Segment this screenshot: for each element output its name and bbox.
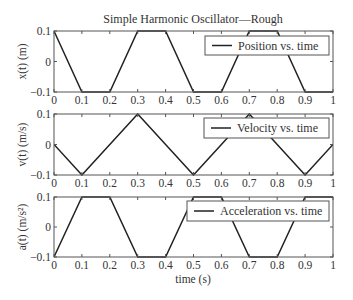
x-tick-label: 0.5	[186, 177, 201, 189]
x-tick-label: 0.6	[214, 94, 229, 106]
subplots: 00.10.20.30.40.50.60.70.80.91−0.100.1x(t…	[16, 25, 336, 271]
x-tick-label: 0.9	[298, 259, 313, 271]
x-tick-label: 0.3	[131, 177, 146, 189]
x-tick-label: 1	[330, 94, 336, 106]
legend: Position vs. time	[205, 36, 329, 55]
x-tick-label: 0.3	[131, 94, 146, 106]
y-tick-label: 0	[45, 56, 51, 68]
y-tick-label: 0.1	[37, 191, 52, 203]
legend: Velocity vs. time	[204, 118, 329, 138]
y-tick-label: 0	[45, 221, 51, 233]
x-tick-label: 0.9	[298, 94, 313, 106]
x-axis-label: time (s)	[175, 273, 211, 286]
x-tick-label: 0.7	[242, 259, 257, 271]
y-tick-label: −0.1	[30, 251, 51, 263]
subplot-3: 00.10.20.30.40.50.60.70.80.91−0.100.1a(t…	[16, 191, 336, 271]
x-tick-label: 0.2	[103, 177, 118, 189]
x-tick-label: 0	[51, 177, 57, 189]
x-tick-label: 0.2	[103, 94, 118, 106]
y-axis-label: a(t) (m/s²)	[16, 204, 29, 251]
x-tick-label: 0.8	[270, 259, 285, 271]
x-tick-label: 0.4	[158, 177, 173, 189]
x-tick-label: 0.6	[214, 259, 229, 271]
x-tick-label: 0	[51, 94, 57, 106]
legend-label: Velocity vs. time	[237, 121, 318, 135]
x-tick-label: 0.9	[298, 177, 313, 189]
x-tick-label: 0.5	[186, 259, 201, 271]
x-tick-label: 0.6	[214, 177, 229, 189]
x-tick-label: 0.7	[242, 94, 257, 106]
x-tick-label: 0.2	[103, 259, 118, 271]
chart-title: Simple Harmonic Oscillator—Rough	[103, 12, 282, 26]
x-tick-label: 0.1	[75, 94, 90, 106]
y-tick-label: 0.1	[37, 108, 52, 120]
legend-label: Position vs. time	[238, 39, 318, 53]
x-tick-label: 1	[330, 177, 336, 189]
legend: Acceleration vs. time	[187, 201, 329, 221]
x-tick-label: 0	[51, 259, 57, 271]
x-tick-label: 0.8	[270, 94, 285, 106]
subplot-2: 00.10.20.30.40.50.60.70.80.91−0.100.1v(t…	[16, 108, 336, 189]
figure: Simple Harmonic Oscillator—Rough 00.10.2…	[0, 0, 353, 300]
y-tick-label: −0.1	[30, 86, 51, 98]
x-tick-label: 0.5	[186, 94, 201, 106]
y-tick-label: 0	[45, 139, 51, 151]
x-tick-label: 0.7	[242, 177, 257, 189]
y-tick-label: 0.1	[37, 25, 52, 37]
x-tick-label: 0.1	[75, 259, 90, 271]
x-tick-label: 0.3	[131, 259, 146, 271]
x-tick-label: 0.1	[75, 177, 90, 189]
y-tick-label: −0.1	[30, 169, 51, 181]
chart-svg: Simple Harmonic Oscillator—Rough 00.10.2…	[0, 0, 353, 300]
x-tick-label: 0.8	[270, 177, 285, 189]
subplot-1: 00.10.20.30.40.50.60.70.80.91−0.100.1x(t…	[16, 25, 336, 106]
x-tick-label: 0.4	[158, 94, 173, 106]
y-axis-label: v(t) (m/s)	[16, 122, 29, 166]
x-tick-label: 1	[330, 259, 336, 271]
legend-label: Acceleration vs. time	[220, 204, 322, 218]
x-tick-label: 0.4	[158, 259, 173, 271]
y-axis-label: x(t) (m)	[16, 43, 29, 79]
